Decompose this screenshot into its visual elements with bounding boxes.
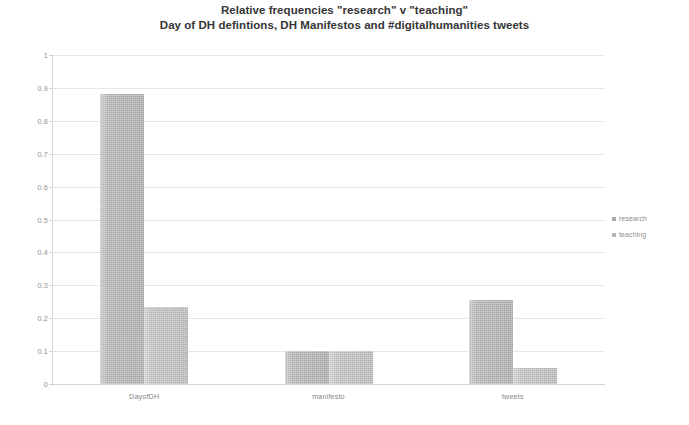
gridline (52, 384, 605, 385)
y-axis-tick-mark (49, 55, 53, 56)
chart-title-line-2: Day of DH defintions, DH Manifestos and … (0, 18, 689, 33)
chart-legend: researchteaching (612, 215, 687, 247)
y-axis-tick-mark (49, 220, 53, 221)
y-axis-tick-label: 0 (2, 380, 48, 389)
y-axis-tick-label: 0.6 (2, 182, 48, 191)
gridline (52, 55, 605, 56)
legend-swatch-icon (612, 233, 616, 237)
y-axis-tick-mark (49, 88, 53, 89)
legend-item-teaching: teaching (612, 231, 687, 238)
y-axis-tick-mark (49, 318, 53, 319)
y-axis-tick-label: 0.1 (2, 347, 48, 356)
gridline (52, 88, 605, 89)
y-axis-tick-mark (49, 187, 53, 188)
y-axis-tick-mark (49, 351, 53, 352)
legend-label: teaching (619, 231, 646, 238)
x-axis-label-manifesto: manifesto (236, 392, 420, 401)
y-axis-tick-mark (49, 252, 53, 253)
legend-swatch-icon (612, 217, 616, 221)
y-axis-tick-label: 0.8 (2, 116, 48, 125)
legend-item-research: research (612, 215, 687, 222)
y-axis-tick-label: 0.7 (2, 149, 48, 158)
plot-area (52, 55, 605, 384)
bar-teaching-manifesto (329, 351, 373, 384)
y-axis-tick-label: 0.4 (2, 248, 48, 257)
bar-teaching-tweets (513, 368, 557, 384)
chart-title-line-1: Relative frequencies "research" v "teach… (0, 3, 689, 18)
y-axis: 00.10.20.30.40.50.60.70.80.91 (0, 55, 48, 384)
y-axis-tick-label: 0.5 (2, 215, 48, 224)
bar-research-DayofDH (100, 94, 144, 384)
legend-label: research (619, 215, 647, 222)
bar-research-tweets (469, 300, 513, 384)
bar-research-manifesto (285, 351, 329, 384)
bar-teaching-DayofDH (144, 307, 188, 384)
x-axis-label-DayofDH: DayofDH (52, 392, 236, 401)
y-axis-tick-label: 0.2 (2, 314, 48, 323)
y-axis-tick-mark (49, 121, 53, 122)
y-axis-tick-mark (49, 285, 53, 286)
y-axis-tick-label: 0.3 (2, 281, 48, 290)
y-axis-tick-label: 1 (2, 51, 48, 60)
y-axis-tick-mark (49, 384, 53, 385)
y-axis-tick-label: 0.9 (2, 83, 48, 92)
x-axis-label-tweets: tweets (421, 392, 605, 401)
y-axis-tick-mark (49, 154, 53, 155)
chart-title: Relative frequencies "research" v "teach… (0, 3, 689, 33)
